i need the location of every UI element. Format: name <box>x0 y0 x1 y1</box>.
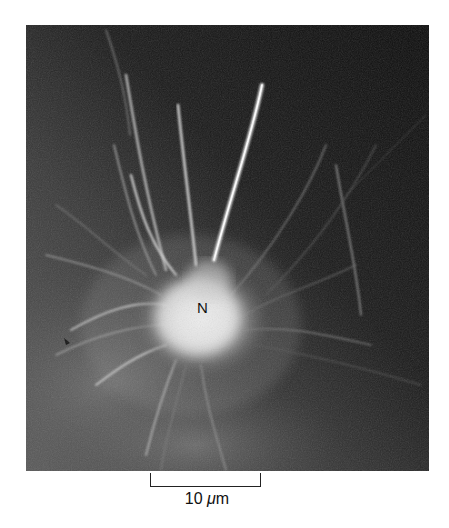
scale-value: 10 <box>185 490 203 507</box>
scale-bar <box>150 473 261 487</box>
scale-unit-prefix: μ <box>207 490 216 507</box>
scale-bar-label: 10 μm <box>150 491 264 507</box>
scale-unit-suffix: m <box>216 490 229 507</box>
neuron-micrograph <box>26 25 429 471</box>
soma-label: N <box>197 300 208 315</box>
